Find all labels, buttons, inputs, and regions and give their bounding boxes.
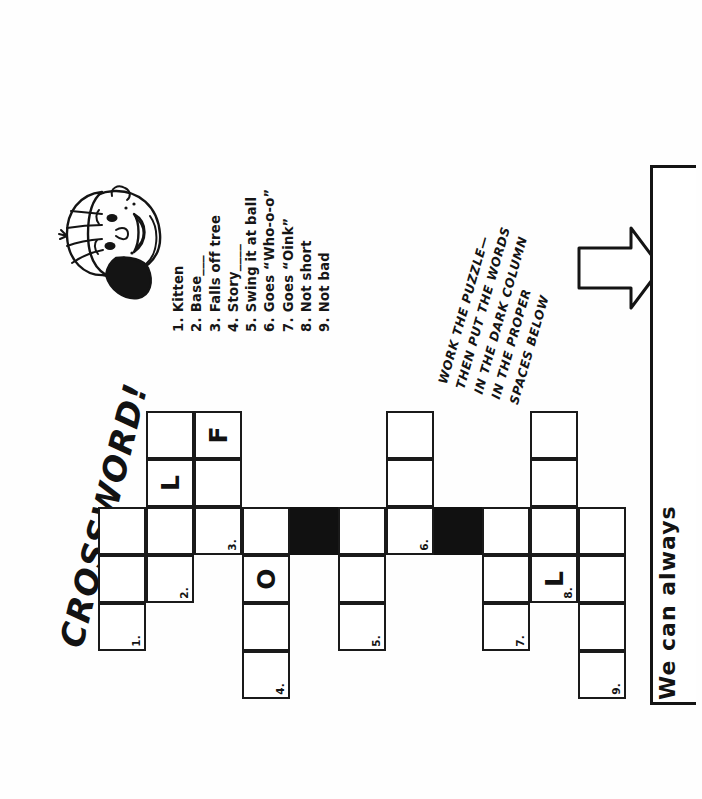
grid-cell[interactable]: 5. bbox=[338, 603, 386, 651]
grid-cell-letter: L bbox=[532, 557, 576, 601]
grid-cell[interactable]: 3. bbox=[194, 507, 242, 555]
grid-cell[interactable] bbox=[482, 507, 530, 555]
clue-text: Kitten bbox=[171, 265, 186, 312]
grid-cell[interactable] bbox=[242, 603, 290, 651]
grid-cell[interactable] bbox=[578, 555, 626, 603]
clue-text: Not short bbox=[299, 240, 314, 312]
clue-text: Story____ bbox=[226, 244, 241, 312]
clue-number: 6. bbox=[263, 317, 276, 332]
grid-cell[interactable] bbox=[242, 507, 290, 555]
grid-cell[interactable]: 1. bbox=[98, 603, 146, 651]
clue-number: 7. bbox=[282, 317, 295, 332]
clue-number: 5. bbox=[245, 317, 258, 332]
grid-cell[interactable] bbox=[146, 507, 194, 555]
grid-cell-number: 9. bbox=[609, 683, 621, 694]
grid-cell[interactable]: 8.L bbox=[530, 555, 578, 603]
grid-cell[interactable]: 2. bbox=[146, 555, 194, 603]
clue-text: Falls off tree bbox=[208, 215, 223, 312]
clue-text: Not bad bbox=[317, 252, 332, 312]
grid-cell-number: 2. bbox=[177, 587, 189, 598]
grid-cell[interactable]: 4. bbox=[242, 651, 290, 699]
grid-cell-number: 4. bbox=[273, 683, 285, 694]
grid-cell[interactable] bbox=[530, 507, 578, 555]
grid-cell[interactable]: L bbox=[146, 459, 194, 507]
list-item: 1. Kitten bbox=[172, 189, 185, 332]
clue-number: 8. bbox=[300, 317, 313, 332]
grid-cell-number: 6. bbox=[417, 539, 429, 550]
clue-number: 2. bbox=[190, 317, 203, 332]
grid-cell[interactable] bbox=[194, 459, 242, 507]
grid-cell-letter: F bbox=[196, 413, 240, 457]
clue-text: Base___ bbox=[189, 255, 204, 312]
clue-text: Goes “Oink” bbox=[281, 218, 296, 313]
crossword-worksheet-page: CROSSWORD! 1. Kitten 2. Base___ 3. Falls… bbox=[0, 0, 702, 799]
list-item: 4. Story____ bbox=[227, 189, 240, 332]
grid-cell-number: 3. bbox=[225, 539, 237, 550]
grid-cell-dark bbox=[434, 507, 482, 555]
clue-number: 3. bbox=[209, 317, 222, 332]
grid-cell[interactable] bbox=[530, 459, 578, 507]
answer-prompt: We can always bbox=[655, 505, 680, 700]
list-item: 9. Not bad bbox=[318, 189, 331, 332]
grid-cell[interactable]: F bbox=[194, 411, 242, 459]
clue-number: 1. bbox=[172, 317, 185, 332]
grid-cell[interactable]: 9. bbox=[578, 651, 626, 699]
crossword-grid[interactable]: 3.6.LF1.2.O4.5.7.8.L9. bbox=[0, 0, 702, 799]
list-item: 2. Base___ bbox=[190, 189, 203, 332]
grid-cell-letter: O bbox=[244, 557, 288, 601]
grid-cell-letter: L bbox=[148, 461, 192, 505]
clue-list: 1. Kitten 2. Base___ 3. Falls off tree 4… bbox=[172, 189, 337, 332]
grid-cell-number: 7. bbox=[513, 635, 525, 646]
clue-text: Goes “Who-o-o” bbox=[262, 189, 277, 312]
grid-cell-dark bbox=[290, 507, 338, 555]
grid-cell[interactable] bbox=[338, 555, 386, 603]
clue-number: 4. bbox=[227, 317, 240, 332]
grid-cell-number: 5. bbox=[369, 635, 381, 646]
grid-cell[interactable]: 6. bbox=[386, 507, 434, 555]
list-item: 3. Falls off tree bbox=[209, 189, 222, 332]
list-item: 8. Not short bbox=[300, 189, 313, 332]
grid-cell[interactable] bbox=[98, 555, 146, 603]
clue-number: 9. bbox=[318, 317, 331, 332]
instructions-block: WORK THE PUZZLE— THEN PUT THE WORDS IN T… bbox=[437, 220, 572, 407]
grid-cell-number: 1. bbox=[129, 635, 141, 646]
grid-cell[interactable] bbox=[98, 507, 146, 555]
list-item: 6. Goes “Who-o-o” bbox=[263, 189, 276, 332]
grid-cell[interactable] bbox=[338, 507, 386, 555]
grid-cell[interactable] bbox=[386, 411, 434, 459]
grid-cell[interactable] bbox=[482, 555, 530, 603]
list-item: 7. Goes “Oink” bbox=[282, 189, 295, 332]
grid-cell[interactable]: 7. bbox=[482, 603, 530, 651]
grid-cell[interactable] bbox=[578, 603, 626, 651]
list-item: 5. Swing it at ball bbox=[245, 189, 258, 332]
clue-text: Swing it at ball bbox=[244, 197, 259, 312]
grid-cell[interactable] bbox=[578, 507, 626, 555]
grid-cell[interactable] bbox=[386, 459, 434, 507]
grid-cell[interactable] bbox=[146, 411, 194, 459]
grid-cell[interactable] bbox=[530, 411, 578, 459]
grid-cell[interactable]: O bbox=[242, 555, 290, 603]
